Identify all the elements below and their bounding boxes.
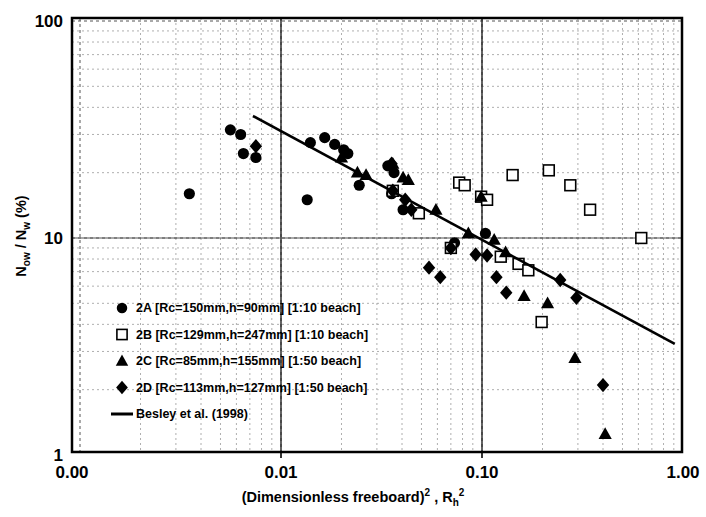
data-point [518, 289, 531, 301]
y-axis-title-n1: N [13, 266, 29, 276]
svg-text:(Dimensionless freeboard)2 , R: (Dimensionless freeboard)2 , Rh2 [242, 487, 465, 508]
legend-label: 2B [Rc=129mm,h=247mm] [1:10 beach] [136, 328, 368, 342]
data-point [302, 194, 313, 205]
y-axis-title-n2: N [13, 230, 29, 240]
legend-item-besley: Besley et al. (1998) [111, 407, 248, 421]
data-point [354, 180, 365, 191]
data-point [500, 285, 512, 299]
data-point [507, 170, 518, 181]
data-point [434, 270, 446, 284]
legend-item-2d: 2D [Rc=113mm,h=127mm] [1:50 beach] [116, 381, 367, 395]
legend-marker [116, 381, 128, 395]
legend-marker [116, 355, 128, 366]
data-point [225, 124, 236, 135]
data-point [490, 270, 502, 284]
x-axis-title-symbol: R [442, 489, 453, 505]
y-axis-title-slash: / [13, 240, 29, 252]
x-tick-label: 0.10 [465, 463, 498, 482]
y-axis-title-sub1: ow [21, 252, 32, 266]
x-axis-title-main: (Dimensionless freeboard) [242, 489, 425, 505]
data-point [480, 228, 491, 239]
data-point [636, 233, 647, 244]
y-tick-labels: 110100 [35, 12, 63, 465]
x-axis-title: (Dimensionless freeboard)2 , Rh2 [242, 487, 465, 508]
chart-svg: 0.000.010.101.00 110100 2A [Rc=150mm,h=9… [0, 0, 706, 517]
y-tick-label: 1 [54, 446, 63, 465]
data-point [423, 260, 435, 274]
y-axis-title: Now / Nw (%) [13, 195, 32, 276]
data-point [481, 248, 493, 262]
series-2a [184, 124, 491, 248]
series-2c [335, 151, 612, 439]
x-tick-label: 0.01 [264, 463, 297, 482]
x-axis-title-exp2: 2 [459, 487, 465, 498]
y-axis-title-unit: (%) [13, 195, 29, 222]
data-point [250, 139, 262, 153]
data-point [536, 317, 547, 328]
data-point [469, 247, 481, 261]
data-point [541, 297, 554, 309]
legend-marker [117, 329, 127, 339]
x-axis-title-sub: h [453, 497, 459, 508]
legend-marker [117, 303, 128, 314]
data-point [543, 165, 554, 176]
x-axis-title-comma: , [430, 489, 442, 505]
data-point [585, 204, 596, 215]
legend-label: Besley et al. (1998) [136, 407, 248, 421]
y-tick-label: 100 [35, 12, 63, 31]
data-point [319, 132, 330, 143]
data-point [565, 180, 576, 191]
x-tick-labels: 0.000.010.101.00 [55, 463, 699, 482]
x-tick-label: 1.00 [666, 463, 699, 482]
data-point [459, 180, 470, 191]
y-tick-label: 10 [44, 229, 63, 248]
data-point [568, 351, 581, 363]
data-point [235, 129, 246, 140]
svg-text:Now / Nw (%): Now / Nw (%) [13, 195, 32, 276]
legend-item-2b: 2B [Rc=129mm,h=247mm] [1:10 beach] [117, 328, 368, 342]
data-point [250, 152, 261, 163]
chart-legend: 2A [Rc=150mm,h=90mm] [1:10 beach]2B [Rc=… [111, 301, 368, 421]
legend-item-2c: 2C [Rc=85mm,h=155mm] [1:50 beach] [116, 354, 361, 368]
legend-label: 2D [Rc=113mm,h=127mm] [1:50 beach] [136, 381, 367, 395]
legend-label: 2C [Rc=85mm,h=155mm] [1:50 beach] [136, 354, 361, 368]
legend-label: 2A [Rc=150mm,h=90mm] [1:10 beach] [136, 301, 361, 315]
data-point [597, 378, 609, 392]
chart-figure: 0.000.010.101.00 110100 2A [Rc=150mm,h=9… [0, 0, 706, 517]
x-tick-label: 0.00 [55, 463, 88, 482]
data-point [184, 188, 195, 199]
legend-item-2a: 2A [Rc=150mm,h=90mm] [1:10 beach] [117, 301, 361, 315]
data-point [238, 148, 249, 159]
y-axis-title-sub2: w [21, 222, 32, 231]
data-point [599, 427, 612, 439]
